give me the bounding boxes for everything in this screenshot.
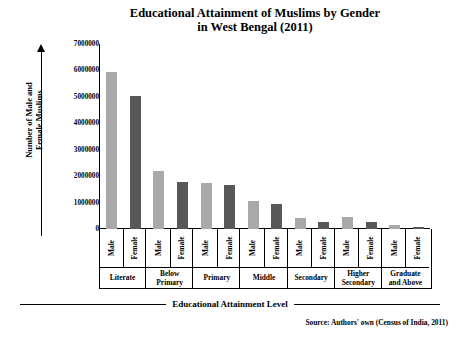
y-tick-label: 3000000 [74,146,99,154]
bar-female [271,204,282,229]
x-axis-title-text: Educational Attainment Level [172,299,288,309]
gender-label-cell-female: Female [311,229,335,267]
bar-female [224,185,235,229]
gender-label-cell-male: Male [382,229,406,267]
gender-cell-divider [311,229,312,267]
bar-female [177,182,188,229]
gender-label-text: Female [366,237,375,260]
gender-label-text: Male [153,240,162,256]
category-name-cell: Graduateand Above [382,267,429,289]
gender-label-row: MaleFemale [288,229,335,267]
gender-label-cell-female: Female [123,229,147,267]
chart-title-line1: Educational Attainment of Muslims by Gen… [130,6,380,20]
x-axis-title-rule-left [20,304,166,305]
gender-label-text: Female [130,237,139,260]
category-group: MaleFemalePrimary [193,229,240,288]
chart-title: Educational Attainment of Muslims by Gen… [60,6,450,34]
gender-label-cell-male: Male [288,229,312,267]
y-axis-tick-labels: 0100000020000003000000400000050000006000… [55,38,99,233]
gender-label-text: Male [295,240,304,256]
gender-label-cell-female: Female [264,229,288,267]
category-name-line: Literate [110,274,135,283]
category-name-cell: Primary [193,267,240,289]
gender-label-text: Male [342,240,351,256]
bar-female [130,96,141,229]
gender-label-row: MaleFemale [335,229,382,267]
gender-label-cell-male: Male [240,229,264,267]
y-tick-label: 2000000 [74,172,99,180]
gender-cell-divider [217,229,218,267]
category-label-table: MaleFemaleLiterateMaleFemaleBelowPrimary… [99,229,430,288]
y-axis-title-line1: Number of Male and [24,82,34,158]
gender-label-text: Female [413,237,422,260]
category-name-line: Primary [204,274,231,283]
category-name-cell: Secondary [288,267,335,289]
gender-label-text: Female [318,237,327,260]
bar-series-container [100,44,430,229]
x-axis-title-rule-right [294,304,440,305]
gender-label-text: Male [389,240,398,256]
category-group: MaleFemaleBelowPrimary [146,229,193,288]
gender-label-cell-female: Female [358,229,382,267]
category-group: MaleFemaleGraduateand Above [382,229,429,288]
source-note: Source: Authors' own (Census of India, 2… [305,318,448,327]
category-name-cell: BelowPrimary [146,267,193,289]
category-name-line: Secondary [342,279,375,288]
gender-label-cell-male: Male [193,229,217,267]
bar-female [318,222,329,229]
chart-title-line2: in West Bengal (2011) [60,20,450,34]
gender-label-cell-male: Male [335,229,359,267]
gender-label-row: MaleFemale [193,229,240,267]
gender-label-cell-male: Male [146,229,170,267]
gender-label-text: Male [201,240,210,256]
y-tick-label: 7000000 [74,40,99,48]
x-axis-title: Educational Attainment Level [20,297,440,311]
y-tick-label: 6000000 [74,66,99,74]
bar-female [366,222,377,229]
gender-label-row: MaleFemale [382,229,429,267]
y-axis-title: Number of Male and Female Muslims [24,45,44,195]
y-tick-label: 1000000 [74,199,99,207]
gender-label-row: MaleFemale [146,229,193,267]
gender-label-row: MaleFemale [240,229,287,267]
chart-figure: Educational Attainment of Muslims by Gen… [0,0,460,337]
bar-male [342,217,353,229]
gender-label-row: MaleFemale [99,229,146,267]
gender-label-text: Female [224,237,233,260]
category-group: MaleFemaleSecondary [288,229,335,288]
category-name-line: Middle [253,274,276,283]
gender-label-cell-female: Female [170,229,194,267]
category-name-cell: Literate [99,267,146,289]
gender-label-text: Female [271,237,280,260]
gender-label-cell-male: Male [99,229,123,267]
bar-male [295,218,306,229]
gender-label-cell-female: Female [217,229,241,267]
gender-cell-divider [358,229,359,267]
bar-male [248,201,259,229]
gender-cell-divider [264,229,265,267]
category-group: MaleFemaleLiterate [99,229,146,288]
gender-label-text: Female [177,237,186,260]
gender-cell-divider [405,229,406,267]
y-tick-label: 5000000 [74,93,99,101]
gender-label-text: Male [248,240,257,256]
bar-male [106,72,117,229]
y-tick-label: 4000000 [74,119,99,127]
bar-male [201,183,212,229]
category-name-line: and Above [389,279,422,288]
category-name-cell: Middle [240,267,287,289]
category-group: MaleFemaleMiddle [240,229,287,288]
category-name-line: Secondary [295,274,328,283]
category-group: MaleFemaleHigherSecondary [335,229,382,288]
y-axis-title-line2: Female Muslims [34,90,44,150]
plot-area [99,44,430,229]
gender-label-cell-female: Female [405,229,429,267]
gender-cell-divider [123,229,124,267]
gender-cell-divider [170,229,171,267]
gender-label-text: Male [106,240,115,256]
category-name-cell: HigherSecondary [335,267,382,289]
category-name-line: Primary [156,279,183,288]
bar-male [153,171,164,229]
